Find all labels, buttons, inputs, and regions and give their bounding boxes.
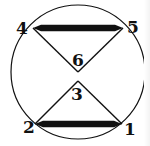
vertex-label-3: 3: [71, 84, 83, 104]
thin-edges: [33, 28, 123, 124]
vertex-label-1: 1: [124, 119, 136, 139]
thick-edge-2-1: [35, 121, 122, 127]
hourglass-circle-diagram: 1 2 3 4 5 6: [0, 0, 150, 146]
vertex-label-4: 4: [16, 18, 28, 38]
scan-edge-strip: [144, 0, 150, 146]
edge-6-5: [78, 28, 123, 72]
thick-edge-4-5: [33, 25, 123, 31]
vertex-label-5: 5: [127, 17, 139, 37]
diagram-canvas: 1 2 3 4 5 6: [0, 0, 150, 146]
vertex-label-6: 6: [72, 50, 84, 70]
edge-3-1: [78, 81, 122, 124]
vertex-label-2: 2: [23, 117, 35, 137]
